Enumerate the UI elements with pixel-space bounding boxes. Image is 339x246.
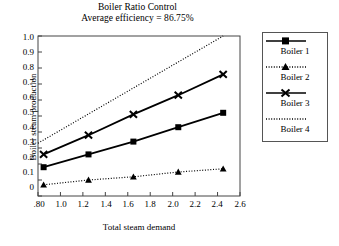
legend-symbol-x-solid bbox=[263, 88, 327, 98]
series-boiler-2 bbox=[40, 165, 226, 187]
series-boiler-1 bbox=[41, 110, 227, 170]
legend-symbol-dotted bbox=[263, 114, 327, 124]
legend-label: Boiler 1 bbox=[263, 46, 327, 57]
legend: Boiler 1 Boiler 2 Boiler 3 bbox=[262, 32, 328, 142]
legend-symbol-square-solid bbox=[263, 36, 327, 46]
legend-entry-boiler-3: Boiler 3 bbox=[263, 88, 327, 114]
legend-label: Boiler 2 bbox=[263, 72, 327, 83]
series-boiler-3 bbox=[40, 71, 227, 158]
legend-label: Boiler 4 bbox=[263, 124, 327, 135]
legend-entry-boiler-2: Boiler 2 bbox=[263, 62, 327, 88]
series-boiler-4 bbox=[38, 36, 223, 143]
chart-figure: Boiler Ratio Control Average efficiency … bbox=[0, 0, 339, 246]
axes-layer bbox=[38, 36, 240, 196]
series-layer bbox=[38, 36, 227, 188]
legend-symbol-triangle-dotted bbox=[263, 62, 327, 72]
legend-entry-boiler-4: Boiler 4 bbox=[263, 114, 327, 140]
legend-entry-boiler-1: Boiler 1 bbox=[263, 36, 327, 62]
legend-label: Boiler 3 bbox=[263, 98, 327, 109]
